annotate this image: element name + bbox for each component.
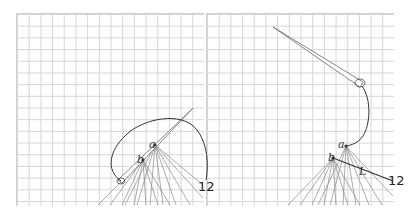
right-label-12: 12 (388, 173, 405, 188)
right-label-a: a (338, 138, 345, 151)
right-needle-icon (273, 27, 365, 87)
right-label-l: L (358, 165, 366, 178)
left-diagram: a b 12 (98, 108, 215, 205)
left-label-12: 12 (198, 179, 215, 194)
right-thread (346, 86, 369, 146)
right-diagram: a b L 12 (273, 27, 405, 205)
left-label-b: b (137, 153, 144, 166)
left-fan-rays (98, 145, 203, 205)
left-label-a: a (149, 138, 156, 151)
stitch-diagram: a b 12 a (0, 0, 413, 220)
right-label-b: b (328, 151, 335, 164)
